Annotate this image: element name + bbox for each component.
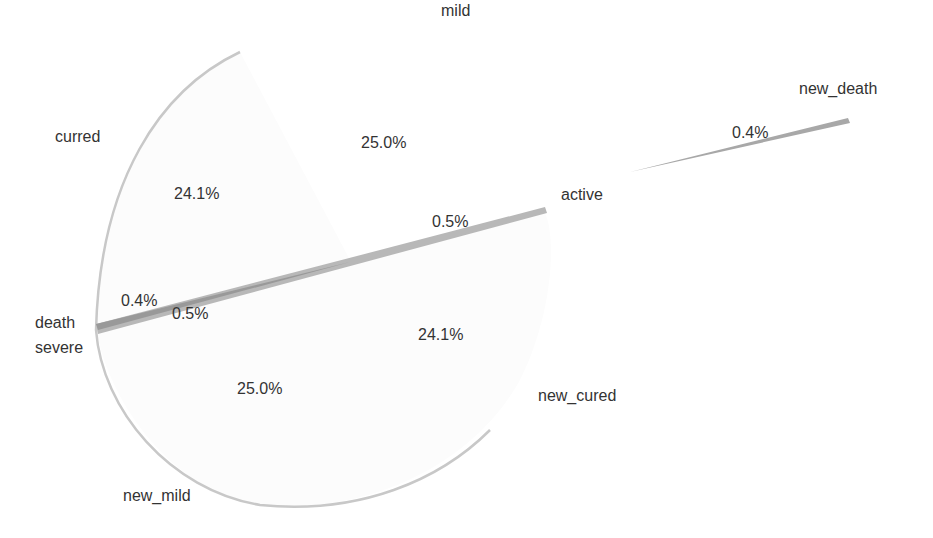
pct-new-cured: 24.1% xyxy=(418,327,463,343)
label-severe: severe xyxy=(35,340,83,356)
pct-mild: 25.0% xyxy=(361,135,406,151)
label-new-mild: new_mild xyxy=(123,488,191,504)
pct-death: 0.4% xyxy=(121,293,157,309)
pct-new-death: 0.4% xyxy=(732,125,768,141)
label-mild: mild xyxy=(441,3,470,19)
pct-severe: 0.5% xyxy=(172,306,208,322)
label-active: active xyxy=(561,187,603,203)
label-new-cured: new_cured xyxy=(538,388,616,404)
label-death: death xyxy=(35,315,75,331)
pct-new-mild: 25.0% xyxy=(237,381,282,397)
pie-chart xyxy=(0,0,933,538)
pct-curred: 24.1% xyxy=(174,186,219,202)
label-new-death: new_death xyxy=(799,81,877,97)
pct-active: 0.5% xyxy=(432,214,468,230)
label-curred: curred xyxy=(55,129,100,145)
